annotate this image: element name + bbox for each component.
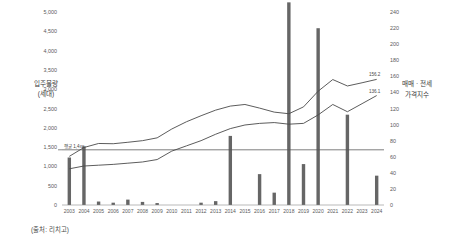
bar-2017: [273, 193, 276, 205]
x-tick-2013: 2013: [210, 208, 221, 214]
bar-2018: [287, 2, 290, 205]
y-left-tick-3: 1,500: [44, 144, 58, 150]
y-left-tick-0: 0: [54, 202, 57, 208]
bar-2019: [302, 164, 305, 205]
y-right-tick-7: 140: [390, 89, 399, 95]
x-axis-ticks: 2003200420052006200720082009201020112012…: [64, 208, 383, 214]
y-right-tick-3: 60: [390, 154, 396, 160]
y-right-tick-11: 220: [390, 25, 399, 31]
y-axis-left-title-line1: 입주물량: [34, 80, 58, 88]
y-left-tick-7: 3,500: [44, 67, 58, 73]
chart-container: 평균 1,4xx 156.2136.1 05001,0001,5002,0002…: [0, 0, 462, 245]
bar-2003: [68, 158, 71, 205]
y-left-tick-4: 2,000: [44, 125, 58, 131]
x-tick-2023: 2023: [356, 208, 367, 214]
source-note: (출처: 리치고): [31, 225, 69, 234]
bar-2005: [97, 202, 100, 205]
y-right-tick-12: 240: [390, 9, 399, 15]
y-right-tick-9: 180: [390, 57, 399, 63]
bar-2020: [316, 28, 319, 205]
y-left-tick-9: 4,500: [44, 28, 58, 34]
x-tick-2005: 2005: [93, 208, 104, 214]
x-tick-2007: 2007: [122, 208, 133, 214]
bar-2024: [375, 176, 378, 205]
y-right-tick-1: 20: [390, 186, 396, 192]
series-end-label-0: 156.2: [369, 72, 381, 77]
x-tick-2015: 2015: [239, 208, 250, 214]
x-tick-2014: 2014: [225, 208, 236, 214]
x-tick-2019: 2019: [298, 208, 309, 214]
bar-2016: [258, 174, 261, 205]
x-tick-2012: 2012: [195, 208, 206, 214]
bar-2012: [199, 203, 202, 205]
x-tick-2003: 2003: [64, 208, 75, 214]
y-right-tick-10: 200: [390, 41, 399, 47]
y-axis-left-title-line2: (세대): [38, 89, 54, 98]
y-axis-right-title-line1: 매매 · 전세: [402, 79, 432, 88]
y-right-tick-5: 100: [390, 122, 399, 128]
bar-2008: [141, 202, 144, 205]
x-tick-2024: 2024: [371, 208, 382, 214]
y-left-tick-10: 5,000: [44, 9, 58, 15]
x-tick-2009: 2009: [152, 208, 163, 214]
x-tick-2006: 2006: [108, 208, 119, 214]
y-right-tick-0: 0: [390, 202, 393, 208]
y-right-tick-6: 120: [390, 106, 399, 112]
y-left-tick-5: 2,500: [44, 106, 58, 112]
y-axis-right-title-line2: 가격지수: [405, 90, 429, 99]
x-tick-2008: 2008: [137, 208, 148, 214]
x-tick-2011: 2011: [181, 208, 192, 214]
bar-2006: [112, 203, 115, 205]
y-right-tick-4: 80: [390, 138, 396, 144]
series-end-label-1: 136.1: [369, 89, 381, 94]
x-tick-2022: 2022: [342, 208, 353, 214]
bar-2014: [229, 136, 232, 205]
x-tick-2010: 2010: [166, 208, 177, 214]
y-right-tick-2: 40: [390, 170, 396, 176]
y-left-tick-1: 500: [48, 183, 57, 189]
bar-2007: [126, 200, 129, 205]
y-axis-right-ticks: 020406080100120140160180200220240: [390, 9, 399, 208]
x-tick-2016: 2016: [254, 208, 265, 214]
y-left-tick-2: 1,000: [44, 163, 58, 169]
x-tick-2021: 2021: [327, 208, 338, 214]
x-tick-2004: 2004: [78, 208, 89, 214]
y-left-tick-8: 4,000: [44, 48, 58, 54]
y-axis-left-ticks: 05001,0001,5002,0002,5003,0003,5004,0004…: [44, 9, 58, 208]
bar-2004: [82, 146, 85, 205]
y-right-tick-8: 160: [390, 73, 399, 79]
bar-2022: [346, 115, 349, 205]
bar-2013: [214, 201, 217, 205]
x-tick-2017: 2017: [269, 208, 280, 214]
plot-area: 평균 1,4xx 156.2136.1: [58, 2, 384, 205]
x-tick-2020: 2020: [313, 208, 324, 214]
x-tick-2018: 2018: [283, 208, 294, 214]
figure-chart: 평균 1,4xx 156.2136.1 05001,0001,5002,0002…: [0, 0, 462, 245]
